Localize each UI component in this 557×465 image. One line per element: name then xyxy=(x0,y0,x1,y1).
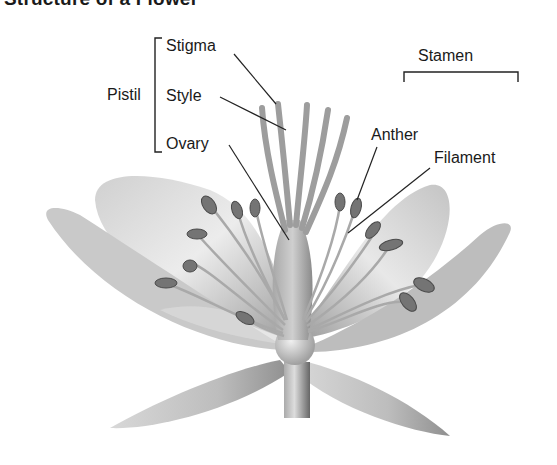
stamen-bracket xyxy=(404,72,518,82)
anther-leader xyxy=(357,147,377,200)
label-pistil: Pistil xyxy=(107,87,141,103)
pistil-bracket xyxy=(155,38,162,152)
stigma-leader xyxy=(234,54,276,104)
sepals xyxy=(110,360,450,436)
label-filament: Filament xyxy=(434,150,495,166)
label-stigma: Stigma xyxy=(166,38,216,54)
flower-illustration xyxy=(0,0,557,465)
label-style: Style xyxy=(166,88,202,104)
label-anther: Anther xyxy=(371,127,418,143)
label-stamen: Stamen xyxy=(418,48,473,64)
label-ovary: Ovary xyxy=(166,136,209,152)
